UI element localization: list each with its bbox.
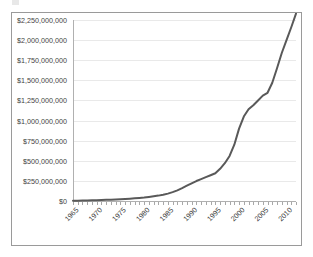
data-series-line (73, 14, 296, 201)
x-axis-tick-label: 1965 (63, 206, 81, 224)
x-axis-tick-label: 1985 (158, 206, 176, 224)
x-axis-tick-label: 1995 (205, 206, 223, 224)
x-axis-tick-label: 2010 (276, 206, 294, 224)
x-axis-tick-label: 2005 (253, 206, 271, 224)
y-axis-tick-label: $500,000,000 (23, 157, 67, 166)
y-axis-tick-label: $1,750,000,000 (17, 56, 67, 65)
line-chart: $0$250,000,000$500,000,000$750,000,000$1… (12, 13, 301, 245)
x-axis-tick-label: 1970 (86, 206, 104, 224)
y-axis-tick-label: $0 (59, 197, 67, 206)
x-axis-tick-label: 1990 (181, 206, 199, 224)
y-axis-tick-label: $250,000,000 (23, 177, 67, 186)
x-axis-tick-label: 1980 (134, 206, 152, 224)
y-axis-tick-label: $2,000,000,000 (17, 36, 67, 45)
image-artifact (12, 0, 19, 5)
chart-frame: $0$250,000,000$500,000,000$750,000,000$1… (11, 12, 302, 246)
x-axis-tick-label: 1975 (110, 206, 128, 224)
y-axis-tick-label: $2,250,000,000 (17, 16, 67, 25)
y-axis-tick-label: $1,250,000,000 (17, 96, 67, 105)
y-axis-tick-label: $1,500,000,000 (17, 76, 67, 85)
y-axis-tick-label: $1,000,000,000 (17, 117, 67, 126)
x-axis-tick-label: 2000 (229, 206, 247, 224)
y-axis-tick-label: $750,000,000 (23, 137, 67, 146)
chart-figure: $0$250,000,000$500,000,000$750,000,000$1… (0, 0, 313, 257)
